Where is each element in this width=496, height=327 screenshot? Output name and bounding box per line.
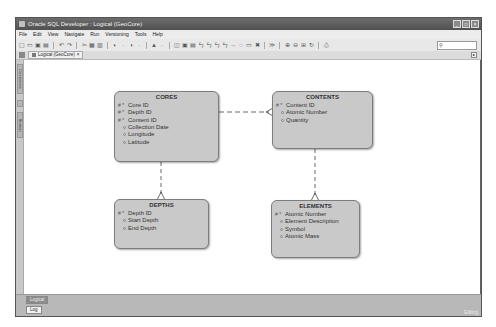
optional-icon [115,133,128,136]
optional-icon [115,141,128,144]
save-all-icon[interactable]: ▤ [43,42,49,48]
bottom-panel: Logical Log Editing [16,294,481,316]
maximize-button[interactable]: □ [462,20,470,28]
attribute-row[interactable]: Atomic Number [273,109,372,116]
side-panel-strip: Connections Browser [16,60,24,294]
navigator-icon[interactable] [19,52,25,58]
attribute-row[interactable]: # *Atomic Number [272,211,359,218]
editor-tab-row: Logical (GeoCore) × ▸ [16,51,481,60]
zoom-out-icon[interactable]: ⊖ [292,42,298,48]
close-button[interactable]: × [471,20,479,28]
attribute-row[interactable]: # *Core ID [115,102,218,109]
attribute-row[interactable]: Symbol [272,226,359,233]
new-relation-m-n-icon[interactable]: ㄣ [222,42,228,48]
diagram-canvas[interactable]: CORES # *Core ID # *Depth ID # *Content … [24,60,481,294]
picture-icon[interactable]: ▭ [246,42,252,48]
fit-icon[interactable]: ⊞ [300,42,306,48]
undo-icon[interactable]: ↶ [58,42,64,48]
menu-file[interactable]: File [19,30,27,39]
open-icon[interactable]: ▭ [27,42,33,48]
attribute-row[interactable]: Start Depth [115,217,208,224]
tab-close-icon[interactable]: × [77,52,80,58]
back-dropdown-icon[interactable]: · [120,42,126,48]
arrow-icon[interactable]: → [230,42,236,48]
delete-icon[interactable]: ✖ [254,42,260,48]
search-icon: ⚲ [439,42,443,48]
forward-icon[interactable]: ◑ [128,42,134,48]
tab-log[interactable]: Log [26,306,42,314]
tab-logical-geocore[interactable]: Logical (GeoCore) × [28,51,83,59]
entity-contents[interactable]: CONTENTS # *Content ID Atomic Number Qua… [272,91,373,149]
attribute-row[interactable]: Longitude [115,131,218,138]
attribute-row[interactable]: Quantity [273,117,372,124]
entity-name: DEPTHS [115,202,208,208]
attribute-row[interactable]: # *Content ID [115,117,218,124]
menu-run[interactable]: Run [90,30,99,39]
menu-versioning[interactable]: Versioning [105,30,128,39]
toolbar-separator [107,42,108,49]
attribute-row[interactable]: Atomic Mass [272,233,359,240]
select-icon[interactable]: ◫ [174,42,180,48]
app-window: Oracle SQL Developer : Logical (GeoCore)… [15,17,482,317]
refresh-icon[interactable]: ↻ [308,42,314,48]
toolbar-separator [76,42,77,49]
copy-icon[interactable]: ▦ [89,42,95,48]
print-icon[interactable]: ⎙ [323,42,329,48]
toolbar: ▢ ▭ ▣ ▤ ↶ ↷ ✂ ▦ ▥ ◐ · ◑ · ▲ · ◫ ▣ ▤ ㄣ ㄣ … [16,39,481,51]
new-entity-icon[interactable]: ▣ [182,42,188,48]
toolbar-separator [318,42,319,49]
run-dropdown-icon[interactable]: · [159,42,165,48]
attribute-row[interactable]: Element Description [272,218,359,225]
minimize-button[interactable]: _ [453,20,461,28]
status-text: Editing [464,310,478,315]
new-relation-1-n-icon[interactable]: ㄣ [206,42,212,48]
entity-depths[interactable]: DEPTHS # *Depth ID Start Depth End Depth [114,199,209,249]
side-tab-connections[interactable]: Connections [17,64,23,94]
entity-name: ELEMENTS [272,203,359,209]
toolbar-separator [53,42,54,49]
toolbar-separator [264,42,265,49]
side-tab-reports-icon[interactable] [17,100,23,107]
new-icon[interactable]: ▢ [19,42,25,48]
save-icon[interactable]: ▣ [35,42,41,48]
optional-icon [273,119,286,122]
menu-navigate[interactable]: Navigate [64,30,84,39]
new-relation-n-1-icon[interactable]: ㄣ [214,42,220,48]
attribute-row[interactable]: Latitude [115,138,218,145]
search-input[interactable]: ⚲ [437,41,477,50]
new-view-icon[interactable]: ▤ [190,42,196,48]
entity-elements[interactable]: ELEMENTS # *Atomic Number Element Descri… [271,200,360,258]
diagram-icon [32,53,36,57]
menu-help[interactable]: Help [152,30,162,39]
note-icon[interactable]: ◌ [238,42,244,48]
attribute-row[interactable]: # *Depth ID [115,109,218,116]
entity-name: CORES [115,94,218,100]
optional-icon [115,126,128,129]
entity-name: CONTENTS [273,94,372,100]
paste-icon[interactable]: ▥ [97,42,103,48]
menu-edit[interactable]: Edit [33,30,42,39]
attribute-row[interactable]: Collection Date [115,124,218,131]
optional-icon [272,220,285,223]
attribute-row[interactable]: End Depth [115,225,208,232]
attribute-row[interactable]: # *Content ID [273,102,372,109]
side-tab-browser[interactable]: Browser [17,112,23,138]
menu-tools[interactable]: Tools [135,30,147,39]
cut-icon[interactable]: ✂ [81,42,87,48]
zoom-in-icon[interactable]: ⊕ [284,42,290,48]
tab-logical[interactable]: Logical [26,296,48,304]
title-bar: Oracle SQL Developer : Logical (GeoCore)… [16,18,481,30]
menu-view[interactable]: View [48,30,59,39]
tab-list-button[interactable]: ▸ [471,52,477,58]
redo-icon[interactable]: ↷ [66,42,72,48]
optional-icon [272,228,285,231]
entity-cores[interactable]: CORES # *Core ID # *Depth ID # *Content … [114,91,219,162]
attribute-row[interactable]: # *Depth ID [115,210,208,217]
new-relation-1-1-icon[interactable]: ㄣ [198,42,204,48]
engineer-icon[interactable]: ≫ [269,42,275,48]
app-icon [19,21,25,27]
back-icon[interactable]: ◐ [112,42,118,48]
forward-dropdown-icon[interactable]: · [136,42,142,48]
optional-icon [272,235,285,238]
run-icon[interactable]: ▲ [151,42,157,48]
